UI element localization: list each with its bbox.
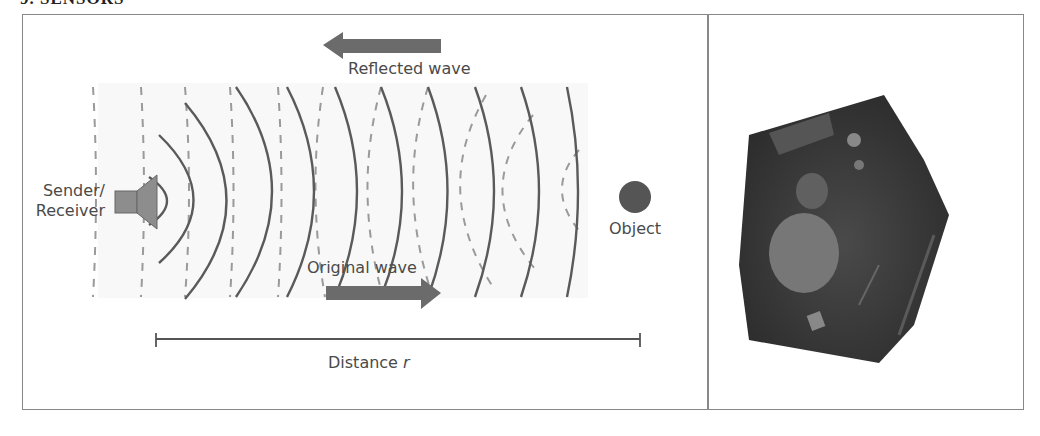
section-header: 9. SENSORS [20,0,124,9]
figure-frame: Reflected wave Original wave Sender/ Rec… [22,14,1024,410]
sonar-diagram-panel: Reflected wave Original wave Sender/ Rec… [23,15,707,409]
sender-label-line1: Sender/ [35,181,105,200]
transducer-disc [769,213,839,293]
reflected-wave-label: Reflected wave [348,59,471,78]
original-wave-label: Original wave [307,258,417,277]
object-circle [619,181,651,213]
sensor-photo-panel [709,15,1023,409]
ultrasonic-sensor-photo [709,15,1025,411]
sender-label-line2: Receiver [27,201,105,220]
distance-bar [156,333,640,347]
object-label: Object [609,219,661,238]
distance-label: Distance r [328,353,410,372]
reflected-arrow-icon [323,32,441,59]
